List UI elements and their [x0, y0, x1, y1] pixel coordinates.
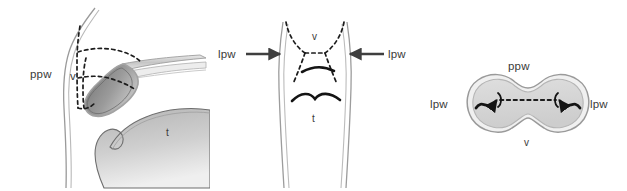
label-velum-frontal: v: [312, 31, 317, 42]
label-tongue-frontal: t: [312, 113, 315, 124]
tongue-arc: [292, 94, 340, 101]
label-velum-sagittal: v: [70, 70, 76, 82]
label-tongue-sagittal: t: [166, 127, 169, 138]
velopharyngeal-closure-figure: ppw v t: [0, 0, 627, 191]
pharynx-cross-section-lumen: [473, 79, 583, 127]
label-lpw-right-frontal: lpw: [388, 48, 406, 60]
label-lpw-left-frontal: lpw: [218, 48, 236, 60]
label-ppw-sagittal: ppw: [30, 68, 52, 80]
lateral-pharyngeal-wall-right: [341, 22, 351, 188]
lateral-pharyngeal-wall-left: [279, 22, 289, 188]
panel-sagittal-view: ppw v t: [0, 0, 210, 191]
tongue: [95, 108, 210, 188]
velum-arc: [302, 67, 334, 72]
label-ppw-axial: ppw: [508, 60, 530, 72]
panel-frontal-view: lpw v lpw t: [210, 0, 420, 191]
panel-axial-view: ppw lpw lpw v: [420, 0, 627, 191]
velum-uvula: [85, 64, 138, 116]
label-lpw-right-axial: lpw: [590, 98, 608, 110]
label-lpw-left-axial: lpw: [430, 98, 448, 110]
label-velum-axial: v: [524, 137, 529, 148]
